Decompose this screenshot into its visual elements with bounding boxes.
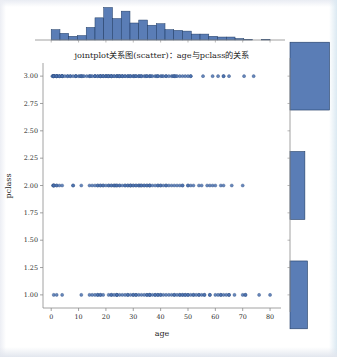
histogram-bar — [290, 152, 305, 220]
y-tick-label: 1.75 — [24, 209, 38, 217]
scatter-point — [217, 75, 220, 78]
histogram-bar — [51, 30, 60, 40]
histogram-bar — [148, 25, 157, 40]
x-tick-label: 20 — [102, 313, 110, 321]
histogram-bar — [191, 34, 200, 40]
x-tick-label: 60 — [211, 313, 219, 321]
scatter-point — [201, 75, 204, 78]
y-axis-ticks: 1.001.251.501.752.002.252.502.753.00 — [24, 72, 43, 299]
histogram-bar — [130, 23, 139, 40]
x-tick-label: 80 — [266, 313, 274, 321]
marginal-histogram-pclass — [290, 42, 330, 329]
scatter-point — [80, 184, 83, 187]
scatter-point — [227, 75, 230, 78]
scatter-point — [269, 293, 272, 296]
scatter-point-group — [51, 75, 272, 297]
histogram-bar — [174, 30, 183, 40]
histogram-bar — [218, 37, 227, 40]
scatter-point — [252, 75, 255, 78]
histogram-bar — [226, 37, 235, 40]
scatter-point — [211, 75, 214, 78]
scatter-point — [243, 75, 246, 78]
scatter-point — [80, 293, 83, 296]
histogram-bar — [209, 36, 218, 40]
scatter-point — [222, 75, 225, 78]
scatter-point — [241, 184, 244, 187]
x-tick-label: 70 — [239, 313, 247, 321]
y-tick-label: 2.50 — [24, 127, 38, 135]
x-tick-label: 40 — [157, 313, 165, 321]
x-tick-label: 0 — [49, 313, 53, 321]
scatter-point — [230, 184, 233, 187]
histogram-bar — [200, 34, 209, 40]
histogram-bar — [95, 18, 104, 40]
scatter-point — [192, 184, 195, 187]
histogram-bar — [77, 36, 86, 40]
y-tick-label: 1.00 — [24, 291, 38, 299]
scatter-series — [51, 184, 244, 187]
scatter-point — [72, 184, 75, 187]
scatter-series — [52, 293, 271, 296]
scatter-point — [181, 184, 184, 187]
histogram-bar — [183, 31, 192, 40]
scatter-point — [227, 293, 230, 296]
scatter-point — [258, 293, 261, 296]
scatter-point — [189, 75, 192, 78]
scatter-point — [102, 293, 105, 296]
scatter-point — [214, 184, 217, 187]
scatter-point — [200, 184, 203, 187]
marginal-histogram-age — [51, 7, 270, 42]
jointplot-canvas: jointplot关系图(scatter)：age与pclass的关系 0102… — [0, 0, 337, 357]
scatter-point — [244, 293, 247, 296]
jointplot-figure: jointplot关系图(scatter)：age与pclass的关系 0102… — [0, 0, 337, 357]
histogram-bar — [156, 24, 165, 40]
scatter-point — [52, 293, 55, 296]
x-tick-label: 50 — [184, 313, 192, 321]
histogram-bar — [290, 261, 307, 329]
scatter-point — [222, 184, 225, 187]
page-title: jointplot关系图(scatter)：age与pclass的关系 — [74, 50, 250, 60]
scatter-series — [51, 75, 255, 78]
histogram-bar — [121, 11, 130, 40]
scatter-point — [61, 293, 64, 296]
scatter-point — [203, 293, 206, 296]
y-tick-label: 3.00 — [24, 72, 38, 80]
histogram-bar — [69, 36, 78, 40]
y-tick-label: 2.00 — [24, 182, 38, 190]
histogram-bar — [86, 27, 95, 40]
x-axis-label: age — [155, 329, 170, 338]
histogram-bar — [104, 7, 113, 40]
histogram-bar — [60, 33, 69, 40]
y-tick-label: 2.75 — [24, 100, 38, 108]
scatter-point — [61, 184, 64, 187]
scatter-point — [55, 293, 58, 296]
y-axis-label: pclass — [4, 173, 13, 198]
scatter-point — [208, 293, 211, 296]
y-tick-label: 1.50 — [24, 236, 38, 244]
x-tick-label: 30 — [129, 313, 137, 321]
histogram-bar — [112, 19, 121, 40]
histogram-bar — [139, 20, 148, 40]
y-tick-label: 1.25 — [24, 264, 38, 272]
scatter-point — [233, 293, 236, 296]
histogram-bar — [165, 30, 174, 40]
histogram-bar — [290, 42, 330, 110]
x-tick-label: 10 — [74, 313, 82, 321]
y-tick-label: 2.25 — [24, 154, 38, 162]
x-axis-ticks: 01020304050607080 — [49, 308, 274, 321]
